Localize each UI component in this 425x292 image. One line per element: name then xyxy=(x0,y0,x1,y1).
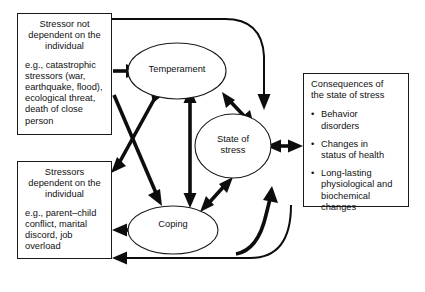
box-stressor-dependent-title: Stressors dependent on the individual xyxy=(25,167,104,201)
node-coping-shape[interactable] xyxy=(128,206,218,254)
box-stressor-not-dependent[interactable]: Stressor not dependent on the individual… xyxy=(17,13,112,135)
list-item: Changes in status of health xyxy=(311,139,401,161)
diagram-canvas: Temperament State of stress Coping Stres… xyxy=(0,0,425,292)
box-consequences[interactable]: Consequences of the state of stress Beha… xyxy=(303,73,409,207)
list-item: Behavior disorders xyxy=(311,109,401,131)
node-state-of-stress-shape[interactable] xyxy=(195,114,271,178)
box-stressor-dependent[interactable]: Stressors dependent on the individual e.… xyxy=(17,161,112,259)
list-item: Long-lasting physiological and biochemic… xyxy=(311,168,401,213)
box-stressor-not-dependent-body: e.g., catastrophic stressors (war, earth… xyxy=(25,60,104,127)
box-consequences-content: Consequences of the state of stress Beha… xyxy=(304,74,408,217)
box-stressor-not-dependent-title: Stressor not dependent on the individual xyxy=(25,19,104,53)
box-consequences-bullet-list: Behavior disorders Changes in status of … xyxy=(311,109,401,213)
node-temperament-shape[interactable] xyxy=(128,43,226,99)
box-stressor-not-dependent-content: Stressor not dependent on the individual… xyxy=(18,14,111,131)
box-stressor-dependent-content: Stressors dependent on the individual e.… xyxy=(18,162,111,256)
box-consequences-title: Consequences of the state of stress xyxy=(311,79,401,101)
box-stressor-dependent-body: e.g., parent–child conflict, marital dis… xyxy=(25,208,104,253)
